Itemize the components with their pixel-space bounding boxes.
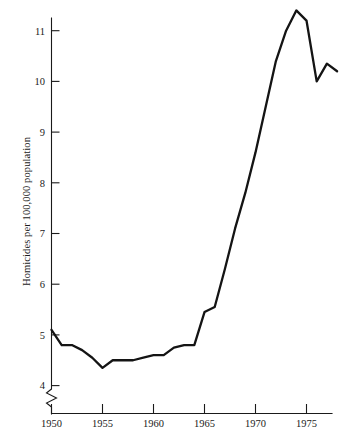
y-tick-label-10: 10 (35, 76, 46, 87)
x-tick-label-1970: 1970 (245, 418, 266, 429)
y-tick-label-6: 6 (40, 279, 45, 290)
y-tick-label-8: 8 (40, 178, 45, 189)
y-tick-label-11: 11 (35, 26, 45, 37)
x-axis-ticks: 1950 1955 1960 1965 1970 1975 (41, 404, 317, 429)
y-tick-label-5: 5 (40, 330, 45, 341)
y-tick-label-4: 4 (40, 380, 46, 391)
data-series-line (52, 10, 338, 367)
y-tick-label-9: 9 (40, 127, 45, 138)
x-tick-label-1960: 1960 (143, 418, 164, 429)
line-chart: Homicides per 100,000 population 11 10 9… (0, 0, 343, 440)
x-tick-label-1965: 1965 (194, 418, 215, 429)
x-tick-label-1950: 1950 (41, 418, 62, 429)
x-tick-label-1975: 1975 (296, 418, 317, 429)
chart-figure: Homicides per 100,000 population 11 10 9… (0, 0, 343, 440)
y-tick-label-7: 7 (40, 228, 45, 239)
y-axis-label: Homicides per 100,000 population (21, 136, 32, 286)
x-tick-label-1955: 1955 (92, 418, 113, 429)
